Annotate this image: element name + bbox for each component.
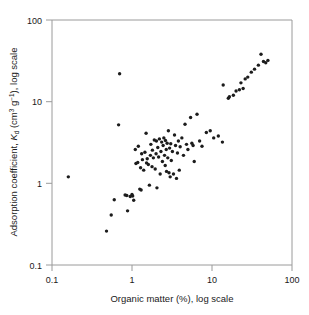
data-point	[167, 171, 170, 174]
y-tick-label-1: 1	[37, 179, 42, 189]
data-point	[228, 95, 231, 98]
data-point	[151, 148, 154, 151]
data-point	[241, 87, 244, 90]
data-point	[143, 151, 146, 154]
data-point	[149, 143, 152, 146]
y-tick-label-3: 100	[27, 16, 42, 26]
chart-canvas: 100 10 1 0.1 0.1 1 10 100 Organic matter…	[0, 0, 309, 315]
data-point	[198, 139, 201, 142]
data-point	[221, 140, 224, 143]
data-point	[193, 160, 196, 163]
data-point	[234, 89, 237, 92]
x-tick-label-3: 100	[284, 275, 299, 285]
data-point	[253, 67, 256, 70]
data-point	[134, 148, 137, 151]
data-point	[257, 63, 260, 66]
data-point	[150, 165, 153, 168]
data-point	[132, 199, 135, 202]
data-point	[173, 133, 176, 136]
y-axis-title: Adsorption coefficient, Kd (cm3 g−1), lo…	[8, 47, 20, 236]
data-point	[168, 175, 171, 178]
data-point	[169, 142, 172, 145]
data-point	[165, 148, 168, 151]
data-point	[146, 157, 149, 160]
data-point	[105, 229, 108, 232]
y-axis-title-units-mid: g	[8, 101, 19, 109]
data-point	[259, 53, 262, 56]
y-axis-title-units-open: (cm	[8, 112, 19, 131]
data-point	[165, 142, 168, 145]
data-point	[155, 139, 158, 142]
y-tick-label-0: 0.1	[29, 261, 42, 271]
data-point	[178, 145, 181, 148]
data-point	[152, 156, 155, 159]
data-point	[171, 150, 174, 153]
data-point	[158, 137, 161, 140]
data-point	[209, 129, 212, 132]
data-point	[168, 146, 171, 149]
data-point	[149, 154, 152, 157]
data-point	[182, 154, 185, 157]
data-point	[142, 168, 145, 171]
y-tick-labels: 100 10 1 0.1	[27, 16, 42, 271]
data-point	[170, 159, 173, 162]
x-tick-labels: 0.1 1 10 100	[46, 275, 300, 285]
data-point	[183, 122, 186, 125]
data-point	[212, 136, 215, 139]
data-point	[141, 158, 144, 161]
data-point	[131, 194, 134, 197]
data-point	[166, 156, 169, 159]
data-point	[205, 131, 208, 134]
data-point	[238, 88, 241, 91]
y-axis-title-units-close: ), log scale	[8, 47, 19, 93]
x-axis-title: Organic matter (%), log scale	[110, 293, 233, 304]
data-point	[200, 144, 203, 147]
data-point	[139, 166, 142, 169]
data-points-layer	[67, 53, 270, 233]
data-point	[176, 151, 179, 154]
data-point	[139, 188, 142, 191]
data-point	[110, 213, 113, 216]
data-point	[159, 150, 162, 153]
data-point	[163, 154, 166, 157]
data-point	[147, 163, 150, 166]
data-point	[136, 161, 139, 164]
y-tick-label-2: 10	[32, 97, 42, 107]
y-axis-title-lead: Adsorption coefficient,	[8, 141, 19, 237]
x-tick-label-2: 10	[207, 275, 217, 285]
data-point	[161, 160, 164, 163]
data-point	[156, 146, 159, 149]
data-point	[161, 144, 164, 147]
data-point	[117, 123, 120, 126]
data-point	[154, 152, 157, 155]
data-point	[125, 194, 128, 197]
data-point	[217, 134, 220, 137]
plot-frame	[52, 20, 292, 265]
y-axis-ticks	[46, 20, 52, 265]
data-point	[239, 81, 242, 84]
data-point	[160, 140, 163, 143]
data-point	[126, 209, 129, 212]
data-point	[185, 143, 188, 146]
data-point	[175, 177, 178, 180]
x-tick-label-0: 0.1	[46, 275, 59, 285]
data-point	[221, 83, 224, 86]
data-point	[140, 152, 143, 155]
x-axis-ticks	[52, 265, 292, 271]
data-point	[180, 136, 183, 139]
data-point	[155, 186, 158, 189]
data-point	[266, 59, 269, 62]
data-point	[186, 148, 189, 151]
data-point	[191, 144, 194, 147]
data-point	[250, 70, 253, 73]
data-point	[67, 175, 70, 178]
data-point	[172, 172, 175, 175]
data-point	[137, 144, 140, 147]
data-point	[118, 72, 121, 75]
x-tick-label-1: 1	[129, 275, 134, 285]
data-point	[158, 172, 161, 175]
data-point	[189, 116, 192, 119]
data-point	[232, 94, 235, 97]
data-point	[174, 144, 177, 147]
data-point	[157, 155, 160, 158]
